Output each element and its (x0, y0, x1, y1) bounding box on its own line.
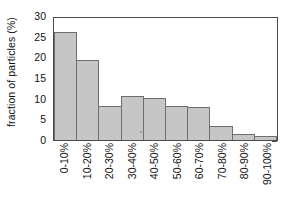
plot-area (53, 17, 278, 141)
y-tick-label-25: 25 (24, 32, 46, 43)
bar-80-to-90 (232, 134, 255, 140)
x-tick-slot-8: 80-90% (233, 143, 256, 201)
x-tick-slot-0: 0-10% (53, 143, 76, 201)
x-tick-slot-5: 50-60% (166, 143, 189, 201)
y-axis-title: fraction of particles (%) (5, 10, 17, 134)
y-tick-label-10: 10 (24, 94, 46, 105)
x-tick-label-0-to-10: 0-10% (58, 143, 70, 199)
bar-50-to-60 (165, 106, 188, 140)
y-tick-label-5: 5 (24, 114, 46, 125)
bar-40-to-50 (143, 98, 166, 140)
x-tick-label-80-to-90: 80-90% (238, 143, 250, 199)
bar-0-to-10 (54, 32, 77, 140)
x-tick-label-90-to-100: 90-100% (261, 143, 273, 199)
x-tick-slot-6: 60-70% (188, 143, 211, 201)
y-tick-mark-right-0 (272, 141, 277, 142)
y-axis-title-container: fraction of particles (%) (0, 0, 22, 150)
x-tick-label-30-to-40: 30-40% (126, 143, 138, 199)
bar-20-to-30 (98, 106, 121, 140)
bar-70-to-80 (209, 126, 232, 140)
x-tick-slot-4: 40-50% (143, 143, 166, 201)
x-tick-label-50-to-60: 50-60% (171, 143, 183, 199)
y-tick-label-20: 20 (24, 52, 46, 63)
y-tick-label-0: 0 (24, 135, 46, 146)
bar-chart-figure: fraction of particles (%) 302520151050 0… (0, 0, 293, 202)
x-tick-label-70-to-80: 70-80% (216, 143, 228, 199)
x-tick-slot-2: 20-30% (98, 143, 121, 201)
scan-artifact-speck (140, 131, 142, 133)
y-tick-label-15: 15 (24, 73, 46, 84)
x-tick-label-40-to-50: 40-50% (148, 143, 160, 199)
x-tick-slot-7: 70-80% (211, 143, 234, 201)
x-tick-label-20-to-30: 20-30% (103, 143, 115, 199)
x-tick-label-10-to-20: 10-20% (81, 143, 93, 199)
x-tick-slot-9: 90-100% (256, 143, 279, 201)
bar-90-to-100 (254, 136, 277, 140)
x-tick-slot-1: 10-20% (76, 143, 99, 201)
bar-10-to-20 (76, 60, 99, 140)
x-tick-label-60-to-70: 60-70% (193, 143, 205, 199)
bar-series (54, 18, 277, 140)
bar-60-to-70 (187, 107, 210, 140)
bar-30-to-40 (121, 96, 144, 140)
x-axis-tick-labels: 0-10%10-20%20-30%30-40%40-50%50-60%60-70… (53, 143, 278, 201)
y-tick-label-30: 30 (24, 11, 46, 22)
x-tick-slot-3: 30-40% (121, 143, 144, 201)
